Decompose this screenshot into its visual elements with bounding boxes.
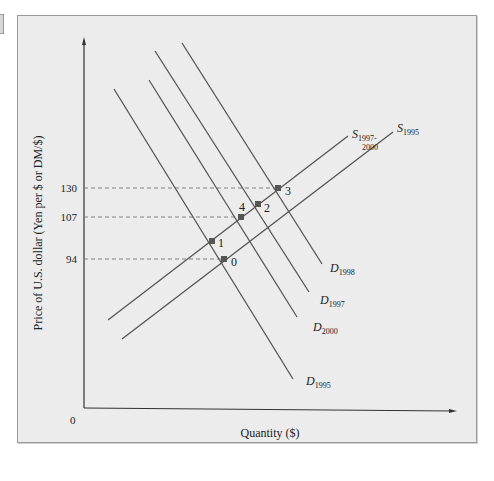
label-d-1997: D1997 — [319, 293, 345, 309]
point-1-marker — [209, 238, 215, 244]
point-1-label: 1 — [218, 236, 224, 250]
y-axis-arrow-icon — [82, 37, 86, 45]
label-s-1995: S1995 — [397, 121, 419, 137]
y-axis-label: Price of U.S. dollar (Yen per $ or DM/$) — [31, 136, 45, 331]
label-d-1998: D1998 — [329, 261, 355, 277]
axes — [84, 40, 453, 411]
supply-demand-diagram: 0 1 4 2 3 130 107 94 S1997- 2000 S1995 D… — [0, 0, 494, 481]
point-4-marker — [238, 214, 244, 220]
label-d-2000: D2000 — [312, 320, 338, 336]
equilibrium-points — [209, 185, 281, 262]
supply-curve-1997-2000 — [108, 136, 348, 320]
x-axis — [84, 408, 453, 411]
point-0-label: 0 — [231, 255, 237, 269]
demand-curve-2000 — [149, 80, 297, 317]
origin-label: 0 — [70, 414, 76, 426]
point-3-label: 3 — [285, 184, 291, 198]
y-tick-107: 107 — [61, 211, 78, 223]
demand-curve-1995 — [114, 89, 293, 379]
point-2-marker — [255, 201, 261, 207]
label-s-1997-2000: S1997- — [352, 127, 377, 143]
x-axis-label: Quantity ($) — [241, 426, 300, 440]
x-axis-arrow-icon — [449, 409, 457, 413]
point-2-label: 2 — [264, 201, 270, 215]
label-s-1997-2000-sub2: 2000 — [362, 143, 378, 152]
y-tick-130: 130 — [61, 182, 78, 194]
y-tick-94: 94 — [66, 253, 78, 265]
demand-curve-1998 — [182, 43, 322, 264]
point-4-label: 4 — [239, 200, 245, 214]
point-3-marker — [275, 185, 281, 191]
label-d-1995: D1995 — [305, 374, 331, 390]
point-0-marker — [221, 256, 227, 262]
